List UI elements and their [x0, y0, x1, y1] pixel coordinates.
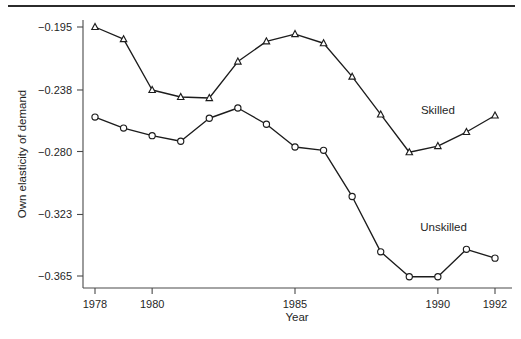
- y-tick-label: −0.323: [38, 208, 72, 220]
- data-point-marker: [492, 112, 498, 118]
- data-point-marker: [92, 24, 98, 30]
- data-point-marker: [320, 40, 326, 46]
- x-axis-group: 19781980198519901992 Year: [83, 288, 512, 323]
- data-point-marker: [435, 274, 441, 280]
- y-tick-label: −0.195: [38, 21, 72, 33]
- x-axis-tick-labels: 19781980198519901992: [83, 298, 507, 310]
- y-tick-label: −0.365: [38, 270, 72, 282]
- series-annotations: SkilledUnskilled: [420, 104, 467, 233]
- data-point-marker: [292, 31, 298, 37]
- data-point-marker: [435, 143, 441, 149]
- y-tick-label: −0.280: [38, 146, 72, 158]
- data-point-marker: [206, 115, 212, 121]
- data-point-marker: [320, 147, 326, 153]
- series-label-unskilled: Unskilled: [420, 221, 467, 233]
- data-point-marker: [235, 105, 241, 111]
- data-point-marker: [378, 249, 384, 255]
- series-line-unskilled: [95, 108, 495, 277]
- data-point-marker: [120, 125, 126, 131]
- x-tick-label: 1978: [83, 298, 107, 310]
- data-point-marker: [92, 114, 98, 120]
- data-point-marker: [120, 36, 126, 42]
- x-tick-label: 1985: [283, 298, 307, 310]
- data-point-marker: [349, 193, 355, 199]
- data-point-marker: [178, 138, 184, 144]
- data-point-marker: [149, 133, 155, 139]
- series-label-skilled: Skilled: [421, 104, 455, 116]
- y-axis-title: Own elasticity of demand: [16, 90, 28, 218]
- y-axis-ticks: [77, 27, 83, 276]
- x-axis-ticks: [95, 288, 495, 294]
- data-point-marker: [463, 129, 469, 135]
- y-axis-group: −0.195−0.238−0.280−0.323−0.365 Own elast…: [16, 20, 83, 288]
- chart-figure: −0.195−0.238−0.280−0.323−0.365 Own elast…: [0, 0, 521, 339]
- series-layer: [92, 24, 498, 280]
- data-point-marker: [406, 274, 412, 280]
- y-axis-tick-labels: −0.195−0.238−0.280−0.323−0.365: [38, 21, 72, 282]
- data-point-marker: [263, 38, 269, 44]
- data-point-marker: [292, 144, 298, 150]
- series-unskilled: [92, 105, 498, 280]
- x-tick-label: 1980: [140, 298, 164, 310]
- data-point-marker: [235, 58, 241, 64]
- x-axis-title: Year: [285, 311, 308, 323]
- data-point-marker: [177, 94, 183, 100]
- data-point-marker: [263, 121, 269, 127]
- data-point-marker: [492, 255, 498, 261]
- data-point-marker: [149, 86, 155, 92]
- elasticity-line-chart: −0.195−0.238−0.280−0.323−0.365 Own elast…: [0, 0, 521, 339]
- x-tick-label: 1990: [426, 298, 450, 310]
- data-point-marker: [463, 246, 469, 252]
- y-tick-label: −0.238: [38, 84, 72, 96]
- x-tick-label: 1992: [483, 298, 507, 310]
